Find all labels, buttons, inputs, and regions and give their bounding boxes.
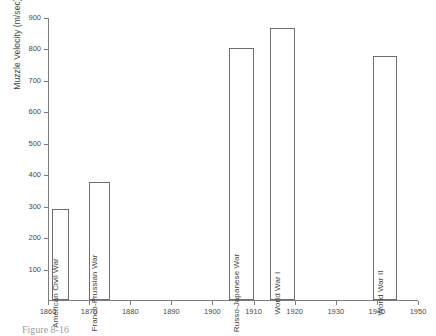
x-tick <box>48 301 49 305</box>
x-tick-label: 1920 <box>286 307 303 316</box>
x-tick-label: 1910 <box>245 307 262 316</box>
y-tick-label: 200 <box>28 233 41 242</box>
bar: Franco-Prussian War <box>89 182 110 300</box>
x-tick <box>295 301 296 305</box>
y-tick-label: 400 <box>28 170 41 179</box>
y-axis-label: Muzzle Velocity (m/sec) <box>10 0 24 109</box>
y-tick: 500 <box>44 144 48 145</box>
x-tick <box>130 301 131 305</box>
y-tick: 800 <box>44 49 48 50</box>
x-tick-label: 1950 <box>410 307 427 316</box>
x-tick-label: 1900 <box>204 307 221 316</box>
x-tick <box>336 301 337 305</box>
y-tick: 600 <box>44 112 48 113</box>
y-tick-label: 100 <box>28 265 41 274</box>
x-tick <box>212 301 213 305</box>
bar: Russo-Japanese War <box>229 48 254 300</box>
x-tick <box>254 301 255 305</box>
y-tick: 200 <box>44 238 48 239</box>
y-tick: 900 <box>44 18 48 19</box>
x-tick-label: 1880 <box>122 307 139 316</box>
bar-label: American Civil War <box>51 258 60 328</box>
plot-area: 100200300400500600700800900 186018701880… <box>48 18 418 301</box>
x-tick-label: 1930 <box>327 307 344 316</box>
bar-label: World War I <box>273 272 282 315</box>
x-tick-label: 1890 <box>163 307 180 316</box>
bar-label: Franco-Prussian War <box>90 254 99 331</box>
bar: World War I <box>270 28 295 300</box>
y-tick-label: 800 <box>28 44 41 53</box>
figure-container: Muzzle Velocity (m/sec) 1002003004005006… <box>0 0 436 336</box>
y-tick: 400 <box>44 175 48 176</box>
y-tick: 100 <box>44 270 48 271</box>
figure-caption: Figure 8-16 <box>22 324 69 335</box>
y-tick-label: 500 <box>28 139 41 148</box>
y-tick-label: 700 <box>28 76 41 85</box>
x-tick <box>171 301 172 305</box>
bar: World War II <box>373 56 398 300</box>
bar: American Civil War <box>52 209 68 300</box>
bar-label: World War II <box>376 270 385 315</box>
y-tick-label: 900 <box>28 13 41 22</box>
y-tick: 700 <box>44 81 48 82</box>
bar-label: Russo-Japanese War <box>232 254 241 332</box>
y-tick-label: 600 <box>28 107 41 116</box>
y-tick-label: 300 <box>28 202 41 211</box>
y-tick: 300 <box>44 207 48 208</box>
x-tick <box>418 301 419 305</box>
y-axis-spine <box>48 18 49 301</box>
